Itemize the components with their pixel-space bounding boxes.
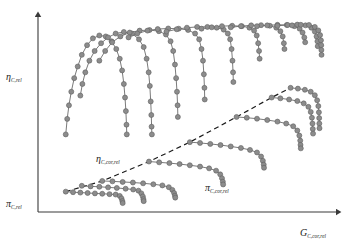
data-point [124, 122, 129, 127]
data-point [123, 186, 128, 191]
data-point [228, 144, 233, 149]
data-markers-layer [63, 22, 324, 205]
data-point [287, 97, 292, 102]
data-point [184, 25, 189, 30]
data-point [137, 37, 142, 42]
data-point [228, 37, 233, 42]
data-point [225, 31, 230, 36]
data-point [249, 23, 254, 28]
data-point [202, 97, 207, 102]
data-point [302, 35, 307, 40]
data-point [120, 201, 125, 206]
data-point [157, 160, 162, 165]
data-point [173, 195, 178, 200]
data-point [65, 116, 70, 121]
data-point [230, 58, 235, 63]
data-point [103, 48, 108, 53]
data-point [147, 83, 152, 88]
data-point [174, 27, 179, 32]
data-point [79, 52, 84, 57]
data-point [275, 119, 280, 124]
data-point [97, 33, 102, 38]
x-axis-label-massflow-sub: C,cor,rel [307, 233, 326, 239]
data-point [171, 48, 176, 53]
y-axis-label-efficiency: ηC,rel [6, 66, 22, 84]
data-point [298, 22, 303, 27]
data-point [244, 115, 249, 120]
annotation-efficiency-curves: ηC,cor,rel [96, 148, 120, 166]
data-point [141, 181, 146, 186]
data-point [131, 187, 136, 192]
data-point [127, 30, 132, 35]
data-point [113, 31, 118, 36]
data-point [278, 96, 283, 101]
data-point [167, 161, 172, 166]
data-point [199, 47, 204, 52]
data-point [175, 103, 180, 108]
data-point [106, 35, 111, 40]
data-point [316, 110, 321, 115]
compressor-map-figure: ηC,rel πC,rel GC,cor,rel ηC,cor,rel πC,c… [0, 0, 354, 240]
data-point [208, 141, 213, 146]
x-axis-label-massflow: GC,cor,rel [300, 222, 326, 240]
data-point [316, 28, 321, 33]
data-point [269, 95, 274, 100]
data-point [247, 147, 252, 152]
data-point [257, 56, 262, 61]
data-point [318, 38, 323, 43]
data-point [145, 28, 150, 33]
data-point [123, 109, 128, 114]
data-point [83, 70, 88, 75]
data-point [317, 121, 322, 126]
data-point [110, 40, 115, 45]
axes [38, 16, 337, 212]
data-point [310, 126, 315, 131]
data-point [63, 132, 68, 137]
data-point [85, 43, 90, 48]
data-point [255, 116, 260, 121]
data-point [198, 140, 203, 145]
data-point [155, 27, 160, 32]
data-point [90, 36, 95, 41]
data-point [298, 146, 303, 151]
data-point [252, 28, 257, 33]
data-point [177, 162, 182, 167]
data-point [238, 24, 243, 29]
data-point [319, 43, 324, 48]
data-point [256, 41, 261, 46]
data-point [120, 179, 125, 184]
data-point [280, 34, 285, 39]
data-point [198, 164, 203, 169]
data-point [229, 47, 234, 52]
data-point [146, 70, 151, 75]
data-point [265, 23, 270, 28]
data-point [238, 145, 243, 150]
data-point [107, 192, 112, 197]
data-point [97, 58, 102, 63]
data-point [85, 190, 90, 195]
data-point [300, 30, 305, 35]
data-point [106, 185, 111, 190]
data-point [306, 104, 311, 109]
data-point [297, 133, 302, 138]
data-point [100, 191, 105, 196]
data-point [141, 45, 146, 50]
data-point [87, 58, 92, 63]
data-point [231, 80, 236, 85]
data-point [301, 101, 306, 106]
data-point [121, 81, 126, 86]
data-point [123, 95, 128, 100]
data-point [214, 25, 219, 30]
data-point [295, 128, 300, 133]
data-point [135, 31, 140, 36]
annotation-efficiency-sub: C,cor,rel [101, 159, 120, 165]
data-point [257, 48, 262, 53]
data-point [200, 58, 205, 63]
data-point [265, 118, 270, 123]
data-point [124, 132, 129, 137]
data-point [214, 168, 219, 173]
data-point [146, 159, 151, 164]
data-point [316, 104, 321, 109]
data-point [302, 87, 307, 92]
data-point [290, 23, 295, 28]
